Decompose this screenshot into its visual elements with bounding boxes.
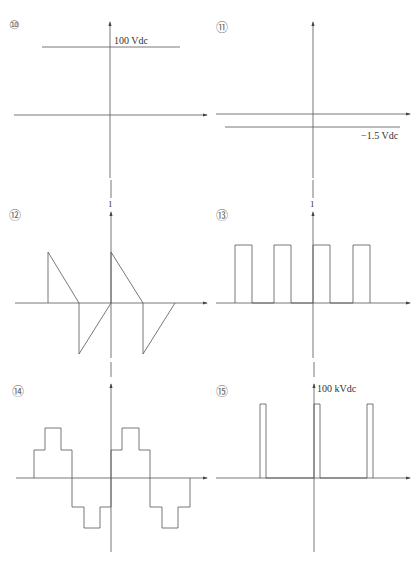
waveform-diagrams	[0, 0, 420, 566]
panel-10-annotation: 100 Vdc	[114, 35, 148, 46]
panel-12-annotation: 1	[108, 199, 113, 209]
panel-11-number: ⑪	[216, 18, 228, 36]
panel-15-axes	[216, 362, 410, 552]
panel-11-annotation: −1.5 Vdc	[361, 130, 398, 141]
panel-15-number: ⑮	[216, 382, 228, 400]
panel-10-axes	[14, 22, 207, 178]
panel-14-number: ⑭	[12, 382, 24, 400]
panel-15-annotation: 100 kVdc	[317, 383, 356, 394]
panel-11-axes	[216, 22, 410, 178]
panel-13-pulses	[235, 245, 370, 303]
panel-13-number: ⑬	[216, 206, 228, 224]
panel-10-number: ⑩	[9, 18, 20, 33]
panel-12-number: ⑫	[9, 206, 21, 224]
panel-13-annotation: 1	[310, 199, 315, 209]
panel-15-pulses	[260, 404, 373, 478]
